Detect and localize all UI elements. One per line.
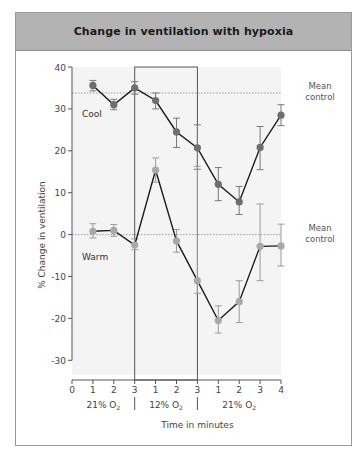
x-tick-label: 2 [174,385,180,395]
phase-label: 12% O2 [149,400,183,411]
x-tick-label: 4 [278,385,284,395]
data-point-cool [89,82,96,89]
mean-control-annotation: Mean [308,81,331,91]
series-label-warm: Warm [82,252,108,262]
data-point-warm [236,298,243,305]
series-label-cool: Cool [82,109,102,119]
data-point-cool [277,112,284,119]
line-chart: 403020100-10-20-30% Change in ventilatio… [0,0,363,461]
y-tick-label: -30 [51,356,66,366]
mean-control-annotation: control [305,92,334,102]
x-tick-label: 3 [257,385,263,395]
data-point-cool [173,128,180,135]
x-axis-label: Time in minutes [160,420,234,430]
data-point-cool [152,97,159,104]
data-point-cool [110,101,117,108]
y-tick-label: 30 [55,104,67,114]
x-tick-label: 1 [153,385,159,395]
data-point-warm [110,227,117,234]
data-point-cool [194,144,201,151]
data-point-warm [215,317,222,324]
x-tick-label: 0 [69,385,75,395]
y-tick-label: 40 [55,63,67,73]
phase-label: 21% O2 [222,400,256,411]
data-point-warm [152,166,159,173]
data-point-warm [131,241,138,248]
x-tick-label: 2 [111,385,117,395]
data-point-cool [131,84,138,91]
x-tick-label: 1 [90,385,96,395]
data-point-cool [257,144,264,151]
data-point-warm [173,237,180,244]
y-tick-label: 0 [60,230,66,240]
data-point-warm [194,277,201,284]
data-point-warm [89,228,96,235]
y-tick-label: 20 [55,146,67,156]
data-point-cool [215,181,222,188]
y-tick-label: 10 [55,188,67,198]
mean-control-annotation: control [305,234,334,244]
data-point-warm [257,243,264,250]
phase-label: 21% O2 [86,400,120,411]
data-point-cool [236,198,243,205]
x-tick-label: 1 [215,385,221,395]
mean-control-annotation: Mean [308,223,331,233]
y-axis-label: % Change in ventilation [37,181,47,289]
plot-area [72,67,281,375]
x-tick-label: 3 [195,385,201,395]
y-tick-label: -20 [51,314,66,324]
x-tick-label: 2 [236,385,242,395]
y-tick-label: -10 [51,272,66,282]
x-tick-label: 3 [132,385,138,395]
data-point-warm [277,242,284,249]
